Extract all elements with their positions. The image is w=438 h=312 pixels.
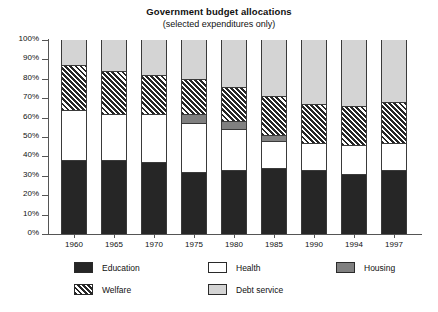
segment-education: [62, 160, 86, 234]
x-axis-label: 1965: [94, 240, 134, 249]
segment-welfare: [62, 65, 86, 110]
bar-1985: [261, 40, 287, 234]
segment-health: [102, 114, 126, 161]
segment-health: [302, 143, 326, 170]
segment-education: [382, 170, 406, 234]
y-axis-tick: 70%: [42, 98, 48, 99]
x-axis-tick-mark: [154, 234, 155, 238]
segment-divider: [302, 170, 326, 171]
segment-debt-service: [142, 40, 166, 75]
y-axis-tick-label: 60%: [23, 112, 39, 121]
x-axis-tick-mark: [194, 234, 195, 238]
bar-1960: [61, 40, 87, 234]
segment-divider: [342, 145, 366, 146]
y-axis-tick-mark: [42, 59, 48, 60]
segment-education: [262, 168, 286, 234]
x-axis-tick-mark: [354, 234, 355, 238]
x-axis-label: 1985: [254, 240, 294, 249]
segment-housing: [182, 114, 206, 124]
legend-swatch-welfare: [74, 284, 93, 295]
segment-debt-service: [302, 40, 326, 104]
segment-divider: [62, 110, 86, 111]
segment-divider: [142, 162, 166, 163]
y-axis-tick-mark: [42, 137, 48, 138]
segment-education: [222, 170, 246, 234]
x-axis-tick-mark: [114, 234, 115, 238]
legend-swatch-housing: [336, 262, 355, 273]
y-axis-tick-mark: [42, 118, 48, 119]
chart-container: Government budget allocations (selected …: [0, 0, 438, 312]
segment-divider: [262, 135, 286, 136]
y-axis-tick-mark: [42, 234, 48, 235]
y-axis-tick-label: 80%: [23, 73, 39, 82]
segment-debt-service: [262, 40, 286, 96]
y-axis-tick-label: 10%: [23, 209, 39, 218]
legend-label: Health: [236, 263, 261, 273]
segment-divider: [182, 123, 206, 124]
y-axis-tick-mark: [42, 215, 48, 216]
y-axis-tick-mark: [42, 79, 48, 80]
y-axis-tick-mark: [42, 195, 48, 196]
segment-divider: [102, 114, 126, 115]
legend-item-health: Health: [208, 262, 261, 273]
y-axis-tick: 90%: [42, 59, 48, 60]
legend-swatch-education: [74, 262, 93, 273]
segment-divider: [222, 170, 246, 171]
segment-divider: [382, 143, 406, 144]
segment-education: [302, 170, 326, 234]
y-axis-tick: 100%: [42, 40, 48, 41]
bar-1975: [181, 40, 207, 234]
legend-swatch-health: [208, 262, 227, 273]
segment-divider: [222, 129, 246, 130]
y-axis-tick: 30%: [42, 176, 48, 177]
legend-label: Welfare: [102, 285, 131, 295]
segment-debt-service: [62, 40, 86, 65]
segment-divider: [262, 168, 286, 169]
segment-education: [342, 174, 366, 234]
legend-item-education: Education: [74, 262, 140, 273]
y-axis-tick-label: 50%: [23, 131, 39, 140]
segment-divider: [342, 106, 366, 107]
segment-debt-service: [182, 40, 206, 79]
segment-health: [382, 143, 406, 170]
segment-divider: [302, 104, 326, 105]
x-axis-label: 1970: [134, 240, 174, 249]
y-axis-tick: 40%: [42, 156, 48, 157]
segment-housing: [222, 121, 246, 129]
y-axis-tick: 60%: [42, 118, 48, 119]
y-axis-tick-label: 20%: [23, 189, 39, 198]
segment-divider: [182, 114, 206, 115]
segment-welfare: [222, 87, 246, 122]
y-axis-tick: 10%: [42, 215, 48, 216]
y-axis-tick: 80%: [42, 79, 48, 80]
segment-welfare: [302, 104, 326, 143]
legend-item-debt-service: Debt service: [208, 284, 283, 295]
title-block: Government budget allocations (selected …: [0, 6, 438, 30]
y-axis-tick-label: 100%: [19, 34, 39, 43]
segment-welfare: [262, 96, 286, 135]
segment-education: [102, 160, 126, 234]
x-axis-tick-mark: [274, 234, 275, 238]
y-axis-tick: 50%: [42, 137, 48, 138]
segment-divider: [102, 160, 126, 161]
y-axis-tick-mark: [42, 176, 48, 177]
x-axis-label: 1975: [174, 240, 214, 249]
segment-divider: [222, 87, 246, 88]
y-axis-tick-mark: [42, 40, 48, 41]
x-axis-label: 1994: [334, 240, 374, 249]
segment-welfare: [342, 106, 366, 145]
segment-divider: [62, 65, 86, 66]
segment-education: [142, 162, 166, 234]
segment-education: [182, 172, 206, 234]
y-axis-tick-label: 40%: [23, 150, 39, 159]
legend-label: Housing: [364, 263, 395, 273]
y-axis-tick: 0%: [42, 234, 48, 235]
segment-divider: [382, 102, 406, 103]
segment-divider: [382, 170, 406, 171]
segment-divider: [182, 172, 206, 173]
x-axis-label: 1960: [54, 240, 94, 249]
x-axis-tick-mark: [314, 234, 315, 238]
y-axis-tick-label: 90%: [23, 53, 39, 62]
segment-health: [262, 141, 286, 168]
y-axis-tick-mark: [42, 98, 48, 99]
